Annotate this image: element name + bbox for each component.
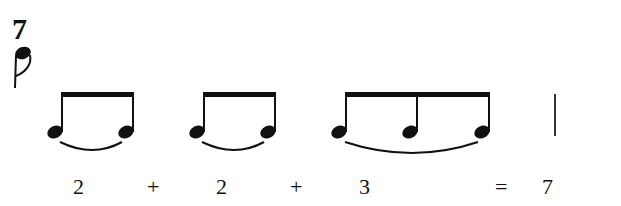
group-count-3: 3: [359, 176, 370, 198]
plus-sign-1: +: [147, 176, 159, 198]
plus-sign-2: +: [290, 176, 302, 198]
beamed-group-2: [187, 92, 278, 150]
beamed-group-1: [45, 92, 136, 150]
group-count-2: 2: [216, 176, 227, 198]
equals-sign: =: [495, 176, 507, 198]
beamed-group-3: [329, 92, 492, 153]
rhythm-notation: [0, 0, 621, 170]
group-count-1: 2: [73, 176, 84, 198]
total-count: 7: [542, 176, 553, 198]
